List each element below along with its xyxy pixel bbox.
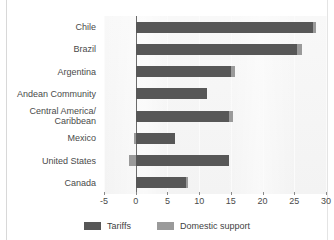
legend-label: Tariffs <box>107 221 131 231</box>
x-tick-label-0: 0 <box>133 196 138 206</box>
chart-figure: ChileBrazilArgentinaAndean CommunityCent… <box>0 0 334 240</box>
x-tick-label--5: -5 <box>100 196 108 206</box>
x-tick-mark-15 <box>231 192 232 195</box>
gridline-25 <box>294 16 295 194</box>
x-tick-mark-30 <box>326 192 327 195</box>
category-label: Argentina <box>57 67 96 77</box>
x-tick-label-5: 5 <box>165 196 170 206</box>
bar-segment-domestic-support <box>229 111 233 122</box>
plot-watermark <box>104 16 326 194</box>
x-tick-mark-10 <box>199 192 200 195</box>
zero-axis-line <box>136 16 137 194</box>
bar-row <box>104 177 326 188</box>
category-label: Brazil <box>73 44 96 54</box>
bar-segment-tariffs <box>136 177 187 188</box>
bar-segment-domestic-support <box>313 22 316 33</box>
x-tick-label-25: 25 <box>289 196 299 206</box>
bar-segment-domestic-support <box>186 177 188 188</box>
bar-stack <box>136 88 208 99</box>
bar-segment-tariffs <box>136 88 208 99</box>
bar-stack <box>136 22 316 33</box>
bar-segment-tariffs <box>136 22 314 33</box>
bar-row <box>104 155 326 166</box>
gridline-30 <box>326 16 327 194</box>
legend-swatch-domestic-support <box>157 222 174 230</box>
x-tick-mark-0 <box>136 192 137 195</box>
gridline-15 <box>231 16 232 194</box>
bar-segment-tariffs <box>136 155 229 166</box>
category-label: Andean Community <box>17 89 96 99</box>
clipped-title-text <box>86 0 266 5</box>
gridline-10 <box>199 16 200 194</box>
gridline-20 <box>263 16 264 194</box>
bar-stack <box>134 133 175 144</box>
category-label: Central America/ Caribbean <box>29 106 96 126</box>
x-tick-mark-20 <box>263 192 264 195</box>
bar-segment-domestic-support <box>231 66 235 77</box>
bar-row <box>104 111 326 122</box>
bar-segment-tariffs <box>136 44 298 55</box>
plot-panel <box>104 16 326 194</box>
x-tick-mark-25 <box>294 192 295 195</box>
bar-stack <box>136 177 189 188</box>
x-axis: -5051015202530 <box>0 196 334 210</box>
bar-segment-tariffs <box>136 133 175 144</box>
chart-legend: TariffsDomestic support <box>0 218 334 234</box>
x-tick-mark-5 <box>167 192 168 195</box>
category-label: Chile <box>75 22 96 32</box>
bar-row <box>104 133 326 144</box>
x-tick-label-15: 15 <box>226 196 236 206</box>
legend-item[interactable]: Tariffs <box>84 221 131 231</box>
category-label: Mexico <box>67 133 96 143</box>
bar-stack <box>136 44 302 55</box>
x-tick-label-30: 30 <box>321 196 331 206</box>
gridline--5 <box>104 16 105 194</box>
bar-stack <box>129 155 229 166</box>
x-tick-label-10: 10 <box>194 196 204 206</box>
bar-segment-tariffs <box>136 66 231 77</box>
bar-stack <box>136 66 235 77</box>
bar-stack <box>136 111 233 122</box>
category-label: Canada <box>64 178 96 188</box>
legend-swatch-tariffs <box>84 222 101 230</box>
gridline-5 <box>167 16 168 194</box>
legend-item[interactable]: Domestic support <box>157 221 250 231</box>
bar-row <box>104 44 326 55</box>
bar-segment-tariffs <box>136 111 229 122</box>
category-label: United States <box>42 156 96 166</box>
bar-row <box>104 22 326 33</box>
x-tick-label-20: 20 <box>258 196 268 206</box>
bar-row <box>104 66 326 77</box>
bar-segment-domestic-support <box>297 44 301 55</box>
legend-label: Domestic support <box>180 221 250 231</box>
bar-row <box>104 88 326 99</box>
x-tick-mark--5 <box>104 192 105 195</box>
bar-segment-domestic-support-negative <box>129 155 136 166</box>
